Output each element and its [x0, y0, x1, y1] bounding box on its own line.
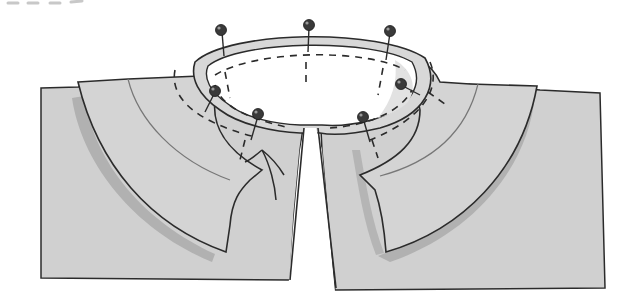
pin-head-icon [304, 20, 315, 31]
pin-head-icon [253, 109, 264, 120]
pin-head-icon [396, 79, 407, 90]
pin-head-icon [216, 25, 227, 36]
sewing-illustration [0, 0, 623, 301]
top-dashed-guide [8, 1, 82, 3]
pin-head-icon [385, 26, 396, 37]
collar-pinning-drawing [0, 0, 623, 301]
pin-head-icon [358, 112, 369, 123]
pin-head-icon [210, 86, 221, 97]
